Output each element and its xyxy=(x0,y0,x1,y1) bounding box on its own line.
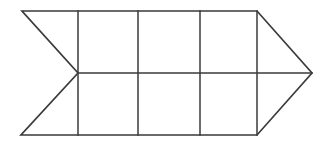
arrow-polygon-diagram xyxy=(0,0,334,147)
figure-canvas xyxy=(0,0,334,147)
